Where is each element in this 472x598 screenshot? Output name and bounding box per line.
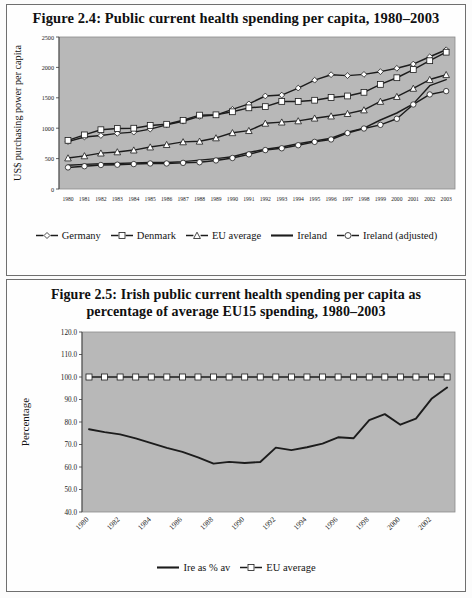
marker-square: [114, 126, 120, 132]
marker-circle: [345, 233, 351, 239]
marker-square: [394, 75, 400, 81]
marker-circle: [230, 155, 235, 160]
x-axis-tick-label: 1999: [375, 196, 386, 202]
legend-label: Denmark: [136, 230, 176, 241]
x-axis-tick-label: 1994: [292, 515, 309, 532]
x-axis-tick-label: 1980: [74, 515, 91, 532]
figure-2-4-chart: 05001000150020002500US$ purchasing power…: [7, 29, 465, 229]
marker-circle: [131, 161, 136, 166]
marker-square: [164, 121, 170, 127]
marker-circle: [82, 164, 87, 169]
figures-page: Figure 2.4: Public current health spendi…: [0, 0, 472, 598]
marker-square: [211, 374, 217, 380]
y-axis-tick-label: 50.0: [64, 486, 77, 494]
marker-square: [345, 93, 351, 99]
marker-square: [361, 90, 367, 96]
figure-2-4-container: Figure 2.4: Public current health spendi…: [6, 4, 466, 276]
marker-circle: [115, 162, 120, 167]
marker-square: [335, 374, 341, 380]
marker-circle: [378, 122, 383, 127]
marker-circle: [65, 165, 70, 170]
marker-square: [410, 67, 416, 73]
marker-square: [304, 374, 310, 380]
marker-square: [147, 123, 153, 129]
marker-square: [320, 374, 326, 380]
marker-square: [427, 58, 433, 64]
x-axis-tick-label: 1980: [62, 196, 73, 202]
y-axis-tick-label: 2500: [42, 34, 54, 41]
legend-label: Ire as % av: [182, 562, 230, 573]
y-axis-tick-label: 90.0: [64, 396, 77, 404]
x-axis-tick-label: 1982: [95, 196, 106, 202]
legend-symbol-square: [110, 230, 134, 241]
y-axis-tick-label: 0: [51, 186, 54, 193]
marker-circle: [263, 147, 268, 152]
marker-square: [226, 374, 232, 380]
x-axis-tick-label: 1994: [293, 196, 304, 202]
x-axis-tick-label: 1989: [210, 196, 221, 202]
figure-2-4-legend-item-eu-average[interactable]: EU average: [185, 230, 261, 241]
marker-square: [230, 109, 236, 115]
marker-square: [328, 95, 334, 101]
x-axis-tick-label: 1998: [354, 515, 371, 532]
y-axis-tick-label: 1500: [42, 95, 54, 102]
marker-circle: [246, 152, 251, 157]
marker-circle: [148, 161, 153, 166]
marker-square: [429, 374, 435, 380]
marker-circle: [279, 146, 284, 151]
figure-2-4-legend-item-denmark[interactable]: Denmark: [110, 230, 176, 241]
marker-circle: [295, 143, 300, 148]
figure-2-4-legend-item-germany[interactable]: Germany: [35, 230, 101, 241]
marker-square: [148, 374, 154, 380]
marker-square: [164, 374, 170, 380]
marker-circle: [394, 116, 399, 121]
marker-square: [413, 374, 419, 380]
legend-symbol-line: [156, 562, 180, 573]
marker-circle: [443, 89, 448, 94]
x-axis-tick-label: 1988: [198, 515, 215, 532]
y-axis-tick-label: 500: [45, 155, 54, 162]
x-axis-tick-label: 1990: [227, 196, 238, 202]
marker-circle: [312, 139, 317, 144]
marker-square: [444, 374, 450, 380]
marker-circle: [98, 162, 103, 167]
x-axis-tick-label: 1997: [342, 196, 353, 202]
x-axis-tick-label: 1990: [229, 515, 246, 532]
figure-2-5-legend-item-eu-average[interactable]: EU average: [239, 562, 315, 573]
figure-2-5-chart: 40.050.060.070.080.090.0100.0110.0120.0P…: [7, 322, 465, 560]
legend-label: EU average: [211, 230, 261, 241]
marker-circle: [361, 126, 366, 131]
marker-square: [257, 374, 263, 380]
marker-square: [197, 112, 203, 118]
figure-2-5-legend-item-ire-as-av[interactable]: Ire as % av: [156, 562, 230, 573]
y-axis-tick-label: 2000: [42, 64, 54, 71]
marker-square: [312, 97, 318, 103]
marker-circle: [164, 161, 169, 166]
marker-square: [288, 374, 294, 380]
marker-triangle: [194, 232, 201, 238]
marker-square: [351, 374, 357, 380]
y-axis-title: Percentage: [19, 398, 31, 446]
marker-circle: [345, 130, 350, 135]
marker-circle: [180, 160, 185, 165]
figure-2-4-legend-item-ireland[interactable]: Ireland: [270, 230, 327, 241]
figure-2-4-legend-item-ireland-adjusted[interactable]: Ireland (adjusted): [336, 230, 437, 241]
plot-area-background: [82, 332, 455, 512]
marker-circle: [197, 160, 202, 165]
y-axis-title: US$ purchasing power per capita: [12, 45, 23, 181]
legend-symbol-line: [270, 230, 294, 241]
legend-symbol-circle: [336, 230, 360, 241]
chart-2-5-svg: 40.050.060.070.080.090.0100.0110.0120.0P…: [7, 322, 466, 560]
x-axis-tick-label: 2003: [441, 196, 452, 202]
marker-square: [443, 49, 449, 55]
x-axis-tick-label: 2002: [424, 196, 435, 202]
x-axis-tick-label: 1996: [323, 515, 340, 532]
marker-square: [65, 138, 71, 144]
marker-square: [397, 374, 403, 380]
figure-2-5-title: Figure 2.5: Irish public current health …: [7, 280, 465, 322]
marker-square: [378, 82, 384, 88]
x-axis-tick-label: 1982: [105, 515, 122, 532]
marker-square: [179, 374, 185, 380]
x-axis-tick-label: 1984: [136, 515, 153, 532]
figure-2-5-title-line1: Figure 2.5: Irish public current health …: [17, 287, 455, 304]
